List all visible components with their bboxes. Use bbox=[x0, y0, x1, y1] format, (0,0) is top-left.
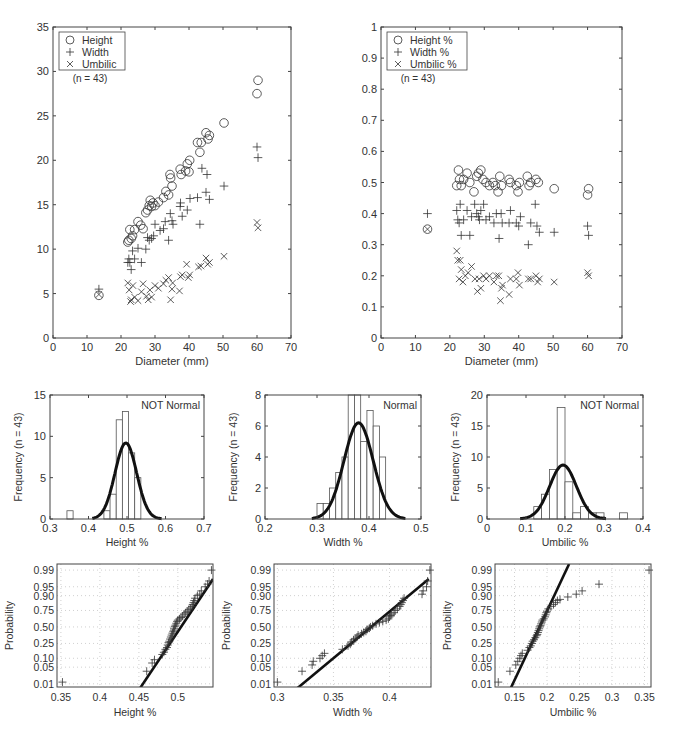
plus-marker-icon bbox=[320, 649, 328, 657]
x-tick-label: 40 bbox=[513, 341, 525, 353]
probability-plot-probplot_width: 0.010.050.100.250.500.750.900.950.990.30… bbox=[220, 564, 434, 718]
x-marker-icon bbox=[155, 285, 161, 291]
y-tick-label: 0.95 bbox=[34, 581, 55, 593]
scatter-panel-dims_vs_diameter: 01020304050607005101520253035Diameter (m… bbox=[37, 21, 297, 367]
x-tick-label: 50 bbox=[547, 341, 559, 353]
x-marker-icon bbox=[203, 255, 209, 261]
axes-box bbox=[495, 564, 651, 687]
y-tick-label: 0.25 bbox=[472, 637, 493, 649]
y-tick-label: 0.10 bbox=[472, 652, 493, 664]
x-marker-icon bbox=[465, 269, 471, 275]
plus-marker-icon bbox=[151, 220, 160, 229]
x-marker-icon bbox=[135, 297, 141, 303]
x-tick-label: 0.3 bbox=[309, 522, 324, 534]
plus-marker-icon bbox=[584, 231, 593, 240]
y-tick-label: 35 bbox=[37, 21, 49, 33]
y-tick-label: 2 bbox=[255, 482, 261, 494]
plus-marker-icon bbox=[452, 206, 461, 215]
probability-plot-probplot_height: 0.010.050.100.250.500.750.900.950.990.35… bbox=[3, 564, 215, 718]
histogram-hist_umbilic: 00.10.20.30.405101520Umbilic %Frequency … bbox=[449, 389, 651, 548]
y-axis-label: Probability bbox=[220, 600, 232, 650]
y-tick-label: 0.75 bbox=[251, 604, 272, 616]
plus-marker-icon bbox=[137, 258, 146, 267]
x-marker-icon bbox=[221, 253, 227, 259]
y-tick-label: 15 bbox=[471, 420, 483, 432]
histogram-bar bbox=[348, 395, 354, 519]
plus-marker-icon bbox=[583, 222, 592, 231]
plus-marker-icon bbox=[512, 661, 520, 669]
histogram-bar bbox=[361, 442, 367, 520]
y-tick-label: 8 bbox=[255, 389, 261, 401]
x-marker-icon bbox=[183, 261, 189, 267]
circle-marker-icon bbox=[146, 196, 155, 205]
series-x bbox=[96, 219, 262, 305]
axes-box bbox=[57, 564, 213, 687]
x-tick-label: 70 bbox=[285, 341, 297, 353]
y-tick-label: 10 bbox=[471, 451, 483, 463]
plus-marker-icon bbox=[470, 200, 479, 209]
x-marker-icon bbox=[169, 280, 175, 286]
plus-marker-icon bbox=[572, 590, 580, 598]
x-marker-icon bbox=[476, 276, 482, 282]
y-axis-label: Probability bbox=[441, 600, 453, 650]
x-marker-icon bbox=[478, 285, 484, 291]
plus-marker-icon bbox=[207, 566, 215, 574]
plus-marker-icon bbox=[166, 209, 175, 218]
x-marker-icon bbox=[138, 289, 144, 295]
x-marker-icon bbox=[456, 276, 462, 282]
plus-marker-icon bbox=[550, 228, 559, 237]
plus-marker-icon bbox=[198, 164, 207, 173]
series-circle bbox=[95, 76, 263, 300]
plus-marker-icon bbox=[418, 590, 426, 598]
y-tick-label: 0 bbox=[40, 513, 46, 525]
y-tick-label: 5 bbox=[40, 472, 46, 484]
x-marker-icon bbox=[186, 272, 192, 278]
normality-note: NOT Normal bbox=[580, 399, 639, 411]
x-tick-label: 0.35 bbox=[323, 691, 344, 703]
scatter-panel-ratios_vs_diameter: 01020304050607000.10.20.30.40.50.60.70.8… bbox=[362, 21, 628, 367]
y-tick-label: 0.10 bbox=[34, 652, 55, 664]
plus-marker-icon bbox=[595, 580, 603, 588]
x-marker-icon bbox=[497, 297, 503, 303]
y-tick-label: 25 bbox=[37, 110, 49, 122]
y-tick-label: 0 bbox=[477, 513, 483, 525]
circle-marker-icon bbox=[254, 76, 263, 85]
y-tick-label: 0.9 bbox=[362, 52, 377, 64]
x-marker-icon bbox=[195, 264, 201, 270]
x-tick-label: 0.3 bbox=[605, 691, 620, 703]
histogram-bar bbox=[67, 511, 73, 519]
y-tick-label: 0.75 bbox=[34, 604, 55, 616]
y-tick-label: 0.01 bbox=[34, 678, 55, 690]
x-marker-icon bbox=[179, 272, 185, 278]
x-marker-icon bbox=[516, 282, 522, 288]
x-tick-label: 0.5 bbox=[171, 691, 186, 703]
circle-marker-icon bbox=[196, 148, 205, 157]
plus-marker-icon bbox=[220, 182, 229, 191]
plus-marker-icon bbox=[535, 228, 544, 237]
plus-marker-icon bbox=[495, 234, 504, 243]
plus-marker-icon bbox=[423, 209, 432, 218]
histogram-bar bbox=[104, 511, 110, 519]
histogram-hist_width: 0.20.30.40.502468Width %Frequency (n = 4… bbox=[227, 389, 429, 548]
plus-marker-icon bbox=[254, 153, 263, 162]
x-tick-label: 0 bbox=[50, 341, 56, 353]
plus-marker-icon bbox=[419, 587, 427, 595]
x-axis-label: Umbilic % bbox=[550, 706, 597, 718]
axes-box bbox=[274, 564, 431, 687]
y-tick-label: 0.95 bbox=[472, 581, 493, 593]
y-tick-label: 0 bbox=[255, 513, 261, 525]
histogram-bar bbox=[367, 411, 373, 520]
x-marker-icon bbox=[206, 259, 212, 265]
y-tick-label: 0.99 bbox=[34, 564, 55, 576]
y-tick-label: 0 bbox=[371, 332, 377, 344]
normality-note: NOT Normal bbox=[141, 399, 200, 411]
plus-marker-icon bbox=[516, 212, 525, 221]
y-tick-label: 0.99 bbox=[251, 564, 272, 576]
plus-marker-icon bbox=[531, 200, 540, 209]
y-tick-label: 0.25 bbox=[34, 637, 55, 649]
histogram-bar bbox=[557, 407, 565, 519]
x-tick-label: 0.45 bbox=[129, 691, 150, 703]
histogram-bar bbox=[620, 513, 628, 519]
circle-marker-icon bbox=[497, 181, 506, 190]
x-tick-label: 0.1 bbox=[518, 522, 533, 534]
